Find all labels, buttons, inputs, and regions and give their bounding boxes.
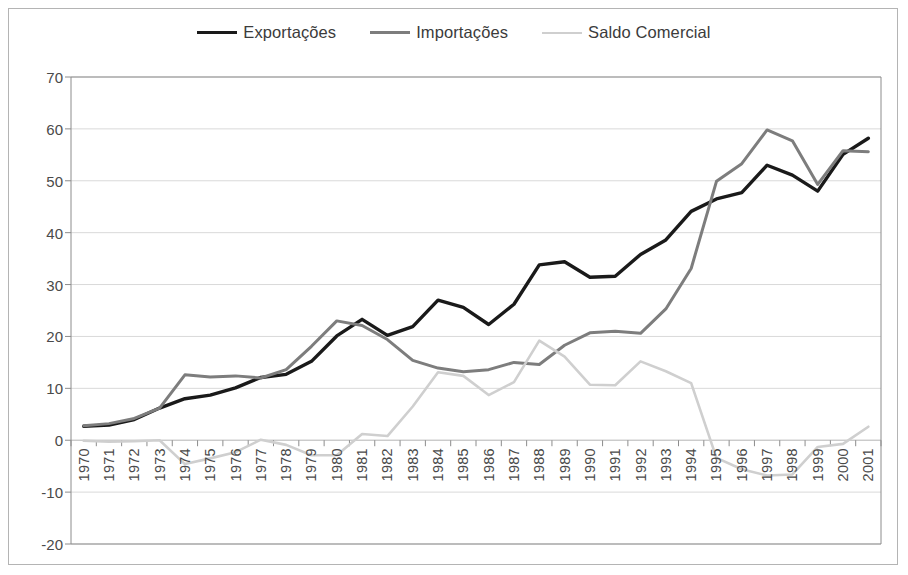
x-axis-tick-label: 1973 <box>152 448 168 481</box>
x-axis-labels: 1970197119721973197419751976197719781979… <box>9 9 899 566</box>
x-axis-tick-label: 1988 <box>531 448 547 481</box>
x-axis-tick-label: 1975 <box>202 448 218 481</box>
x-axis-tick-label: 1979 <box>303 448 319 481</box>
x-axis-tick-label: 1982 <box>379 448 395 481</box>
x-axis-tick-label: 1996 <box>734 448 750 481</box>
x-axis-tick-label: 1976 <box>228 448 244 481</box>
x-axis-tick-label: 1993 <box>658 448 674 481</box>
x-axis-tick-label: 1987 <box>506 448 522 481</box>
x-axis-tick-label: 1970 <box>76 448 92 481</box>
x-axis-tick-label: 1998 <box>784 448 800 481</box>
x-axis-tick-label: 2001 <box>860 448 876 481</box>
x-axis-tick-label: 1971 <box>101 448 117 481</box>
x-axis-tick-label: 2000 <box>835 448 851 481</box>
x-axis-tick-label: 1980 <box>329 448 345 481</box>
plot-area: 706050403020100-10-20 197019711972197319… <box>9 9 899 566</box>
x-axis-tick-label: 1977 <box>253 448 269 481</box>
x-axis-tick-label: 1997 <box>759 448 775 481</box>
x-axis-tick-label: 1972 <box>126 448 142 481</box>
x-axis-tick-label: 1981 <box>354 448 370 481</box>
x-axis-tick-label: 1984 <box>430 448 446 481</box>
x-axis-tick-label: 1978 <box>278 448 294 481</box>
x-axis-tick-label: 1991 <box>607 448 623 481</box>
x-axis-tick-label: 1995 <box>708 448 724 481</box>
x-axis-tick-label: 1992 <box>633 448 649 481</box>
x-axis-tick-label: 1985 <box>455 448 471 481</box>
x-axis-tick-label: 1974 <box>177 448 193 481</box>
x-axis-tick-label: 1999 <box>810 448 826 481</box>
x-axis-tick-label: 1990 <box>582 448 598 481</box>
x-axis-tick-label: 1983 <box>405 448 421 481</box>
x-axis-tick-label: 1986 <box>481 448 497 481</box>
chart-container: ExportaçõesImportaçõesSaldo Comercial 70… <box>8 8 898 565</box>
x-axis-tick-label: 1994 <box>683 448 699 481</box>
x-axis-tick-label: 1989 <box>557 448 573 481</box>
